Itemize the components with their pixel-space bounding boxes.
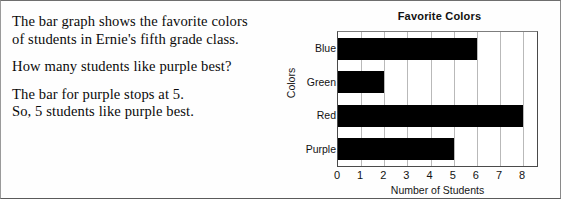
y-tick-red: Red <box>317 98 336 132</box>
x-axis-title: Number of Students <box>337 184 538 196</box>
lesson-answer: The bar for purple stops at 5. So, 5 stu… <box>12 86 284 121</box>
bar-red <box>338 105 523 127</box>
bar-chart: Favorite Colors Colors BlueGreenRedPurpl… <box>273 5 559 198</box>
bar-green <box>338 71 384 93</box>
x-axis-tick-labels: 012345678 <box>337 169 538 183</box>
y-tick-purple: Purple <box>306 132 336 166</box>
y-tick-blue: Blue <box>315 31 336 65</box>
bar-blue <box>338 38 477 60</box>
gridline <box>500 32 501 166</box>
x-tick-4: 4 <box>422 169 438 181</box>
x-tick-0: 0 <box>329 169 345 181</box>
x-tick-8: 8 <box>514 169 530 181</box>
x-tick-6: 6 <box>468 169 484 181</box>
plot-area <box>337 31 538 167</box>
bar-purple <box>338 138 454 160</box>
x-tick-1: 1 <box>352 169 368 181</box>
y-tick-green: Green <box>307 65 336 99</box>
lesson-question: How many students like purple best? <box>12 58 284 76</box>
x-tick-7: 7 <box>491 169 507 181</box>
chart-title: Favorite Colors <box>337 10 542 22</box>
gridline <box>523 32 524 166</box>
gridline <box>477 32 478 166</box>
x-tick-5: 5 <box>445 169 461 181</box>
lesson-text-block: The bar graph shows the favorite colors … <box>12 13 284 121</box>
page-frame: The bar graph shows the favorite colors … <box>0 0 561 199</box>
y-axis-tick-labels: BlueGreenRedPurple <box>281 31 336 167</box>
lesson-paragraph-1: The bar graph shows the favorite colors … <box>12 13 284 48</box>
x-tick-3: 3 <box>398 169 414 181</box>
x-tick-2: 2 <box>375 169 391 181</box>
